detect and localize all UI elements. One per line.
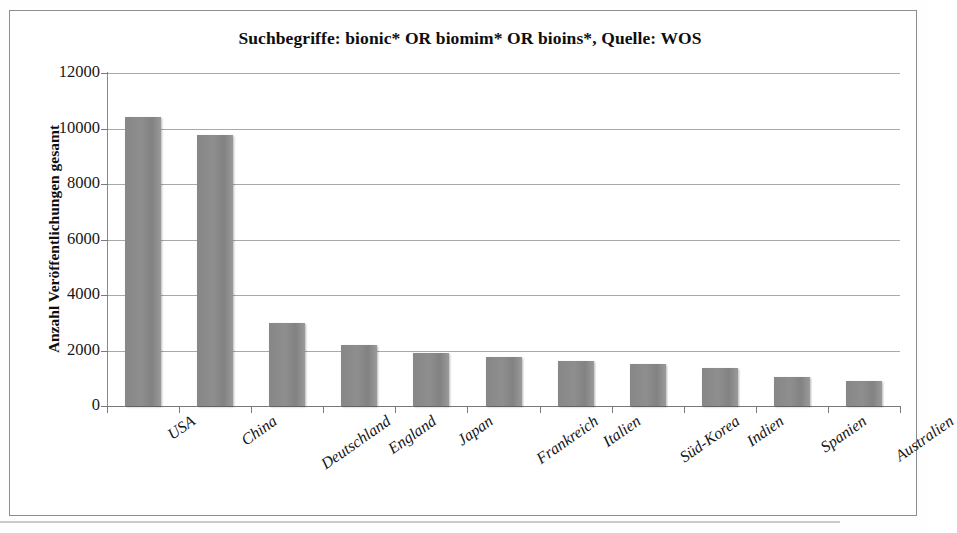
y-tick-mark bbox=[101, 73, 108, 74]
y-axis-tick-labels: 120001000080006000400020000 bbox=[30, 73, 100, 406]
bar-australien bbox=[846, 381, 882, 406]
y-tick-label: 8000 bbox=[67, 173, 100, 193]
gridline bbox=[107, 129, 900, 130]
y-tick-label: 0 bbox=[92, 395, 100, 415]
bar-deutschland bbox=[269, 323, 305, 406]
chart-title: Suchbegriffe: bionic* OR biomim* OR bioi… bbox=[120, 28, 820, 49]
y-tick-label: 4000 bbox=[67, 284, 100, 304]
x-tick-label: Italien bbox=[599, 412, 644, 451]
y-tick-label: 12000 bbox=[59, 62, 100, 82]
x-tick-label: Deutschland bbox=[318, 412, 395, 473]
y-tick-mark bbox=[101, 240, 108, 241]
x-tick-label: China bbox=[238, 412, 280, 449]
x-axis-tick-labels: USAChinaDeutschlandEnglandJapanFrankreic… bbox=[107, 410, 900, 520]
x-tick-label: Spanien bbox=[817, 412, 870, 456]
x-tick-mark bbox=[900, 406, 901, 413]
x-tick-label: Indien bbox=[743, 412, 787, 450]
bar-s-d-korea bbox=[630, 364, 666, 406]
bar-england bbox=[341, 345, 377, 406]
bar-italien bbox=[558, 361, 594, 406]
x-tick-label: Süd-Korea bbox=[676, 412, 743, 466]
plot-area bbox=[107, 73, 900, 406]
bar-indien bbox=[702, 368, 738, 406]
x-tick-label: Japan bbox=[454, 412, 496, 449]
x-tick-label: England bbox=[385, 412, 440, 458]
y-tick-label: 10000 bbox=[59, 118, 100, 138]
bar-frankreich bbox=[486, 357, 522, 406]
bar-spanien bbox=[774, 377, 810, 406]
y-tick-mark bbox=[101, 295, 108, 296]
y-tick-mark bbox=[101, 184, 108, 185]
bar-china bbox=[197, 135, 233, 406]
scan-artifact bbox=[0, 521, 840, 523]
y-tick-label: 2000 bbox=[67, 340, 100, 360]
x-tick-label: USA bbox=[164, 412, 198, 444]
bar-usa bbox=[125, 117, 161, 406]
y-tick-label: 6000 bbox=[67, 229, 100, 249]
y-tick-mark bbox=[101, 129, 108, 130]
x-tick-label: Frankreich bbox=[532, 412, 601, 468]
bar-japan bbox=[413, 353, 449, 406]
gridline bbox=[107, 406, 900, 407]
gridline bbox=[107, 73, 900, 74]
y-tick-mark bbox=[101, 351, 108, 352]
